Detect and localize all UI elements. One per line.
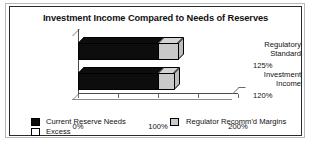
axis-wall-top-edge bbox=[72, 29, 86, 36]
chart-title: Investment Income Compared to Needs of R… bbox=[10, 13, 301, 23]
legend-swatch-regulator-margins bbox=[170, 118, 179, 126]
category-label-line2: Standard bbox=[243, 50, 301, 59]
legend-swatch-excess bbox=[31, 128, 40, 136]
bar-regulatory-standard bbox=[78, 37, 182, 60]
axis-tick-150 bbox=[198, 94, 199, 98]
chart-container: Investment Income Compared to Needs of R… bbox=[9, 6, 302, 136]
legend-label-current-reserve-needs: Current Reserve Needs bbox=[46, 117, 126, 126]
bar-0-segment-regulator-margins bbox=[158, 43, 179, 60]
plot-area: Regulatory Standard Investment Income bbox=[10, 27, 301, 99]
category-label-regulatory-standard: Regulatory Standard bbox=[243, 41, 301, 58]
bar-1-segment-current-reserve-needs bbox=[78, 73, 159, 90]
axis-tick-100 bbox=[158, 94, 159, 98]
axis-tick-0 bbox=[78, 94, 79, 98]
axis-tick-200 bbox=[238, 94, 239, 98]
bar-0-segment-current-reserve-needs bbox=[78, 43, 159, 60]
bar-0-side-face bbox=[178, 37, 184, 60]
legend-label-excess: Excess bbox=[46, 127, 70, 136]
data-label-regulatory-standard: 125% bbox=[253, 61, 272, 70]
category-label-line2: Income bbox=[243, 80, 301, 89]
bar-1-side-face bbox=[174, 67, 180, 90]
value-axis-end-corner bbox=[232, 87, 246, 94]
chart-legend: Current Reserve Needs Excess Regulator R… bbox=[10, 115, 311, 141]
data-label-investment-income: 120% bbox=[253, 91, 272, 100]
legend-swatch-current-reserve-needs bbox=[31, 118, 40, 126]
bar-1-segment-regulator-margins bbox=[158, 73, 175, 90]
legend-label-regulator-margins: Regulator Recomm'd Margins bbox=[186, 117, 286, 126]
value-axis-back-line bbox=[72, 99, 232, 100]
bar-investment-income bbox=[78, 67, 178, 90]
axis-tick-50 bbox=[118, 94, 119, 98]
category-label-investment-income: Investment Income bbox=[243, 71, 301, 88]
chart-screenshot: Investment Income Compared to Needs of R… bbox=[0, 0, 311, 143]
